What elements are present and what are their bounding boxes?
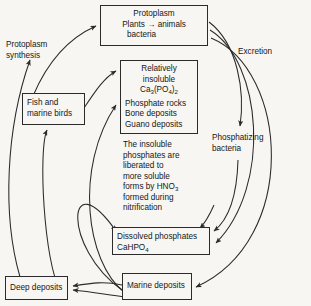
phosphatizing-line1: Phosphatizing <box>212 133 278 144</box>
label-phosphatizing-bacteria: Phosphatizing bacteria <box>212 133 278 154</box>
arrow-marine-to-deep-outer <box>73 290 126 297</box>
fish-line1: Fish and <box>27 98 80 109</box>
insoluble-line5: Bone deposits <box>125 109 193 120</box>
marine-label: Marine deposits <box>127 281 187 292</box>
insoluble-line1: Relatively <box>125 64 193 75</box>
arrow-phosphatizing-to-dissolved <box>214 160 238 231</box>
note-line4: more soluble <box>123 172 205 183</box>
note-line3: liberated to <box>123 161 205 172</box>
deep-label: Deep deposits <box>10 283 63 294</box>
node-deep-deposits: Deep deposits <box>5 276 68 300</box>
node-protoplasm: Protoplasm Plants → animals bacteria <box>100 5 208 46</box>
insoluble-formula: Ca3(PO4)2 <box>125 85 193 96</box>
protoplasm-line1: Protoplasm <box>105 9 203 20</box>
synthesis-line1: Protoplasm <box>6 40 76 51</box>
note-line5: forms by HNO3 <box>123 182 205 193</box>
excretion-text: Excretion <box>238 47 298 58</box>
arrow-protoplasm-to-phosphatizing <box>209 22 241 126</box>
label-excretion: Excretion <box>238 47 298 58</box>
arrow-loop-to-fish <box>43 130 60 290</box>
protoplasm-line3: bacteria <box>105 30 203 41</box>
label-protoplasm-synthesis: Protoplasm synthesis <box>6 40 76 61</box>
arrow-synthesis-to-protoplasm <box>33 26 96 96</box>
node-insoluble-phosphates: Relatively insoluble Ca3(PO4)2 Phosphate… <box>120 60 198 134</box>
node-dissolved-phosphates: Dissolved phosphates CaHPO4 <box>112 227 210 255</box>
dissolved-formula: CaHPO4 <box>117 243 205 254</box>
note-line7: nitrification <box>123 203 205 214</box>
note-line2: phosphates are <box>123 151 205 162</box>
note-insoluble-liberation: The insoluble phosphates are liberated t… <box>123 140 205 214</box>
insoluble-line4: Phosphate rocks <box>125 99 193 110</box>
phosphorus-cycle-diagram: Protoplasm Plants → animals bacteria Rel… <box>0 0 311 306</box>
note-line6: formed during <box>123 193 205 204</box>
dissolved-line1: Dissolved phosphates <box>117 232 205 243</box>
insoluble-line2: insoluble <box>125 75 193 86</box>
note-line1: The insoluble <box>123 140 205 151</box>
insoluble-line6: Guano deposits <box>125 120 193 131</box>
protoplasm-line2: Plants → animals <box>105 20 203 31</box>
synthesis-line2: synthesis <box>6 51 76 62</box>
fish-line2: marine birds <box>27 109 80 120</box>
arrow-marine-to-insoluble <box>90 105 124 292</box>
node-marine-deposits: Marine deposits <box>122 273 192 300</box>
arrow-fish-to-insoluble <box>84 71 116 108</box>
node-fish-and-marine-birds: Fish and marine birds <box>22 93 85 125</box>
phosphatizing-line2: bacteria <box>212 144 278 155</box>
